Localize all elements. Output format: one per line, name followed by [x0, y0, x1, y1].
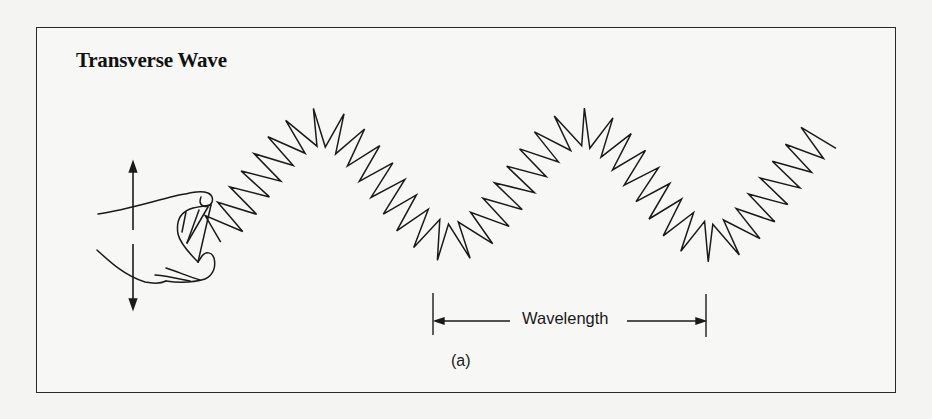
hand-icon [97, 192, 215, 283]
vertical-motion-arrow-icon [130, 162, 137, 309]
wavelength-label: Wavelength [520, 309, 611, 328]
transverse-wave-spring [205, 108, 836, 262]
arrow-right-icon [696, 318, 705, 324]
panel-label: (a) [451, 352, 471, 370]
arrow-left-icon [435, 318, 444, 324]
